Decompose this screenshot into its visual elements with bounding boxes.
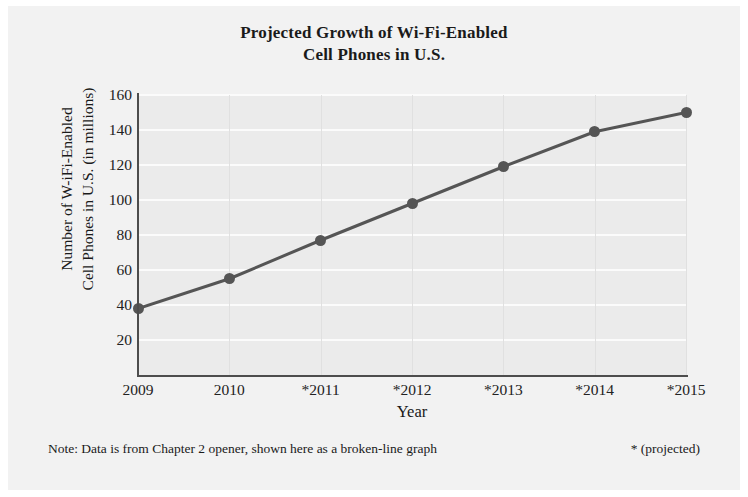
y-tick-label-120: 120: [96, 157, 132, 173]
y-axis-line: [137, 93, 139, 377]
x-tick-label-2009: 2009: [93, 381, 183, 399]
x-axis-title: Year: [138, 402, 686, 422]
data-point-2012: [407, 198, 418, 209]
y-tick-label-160: 160: [96, 87, 132, 103]
y-tick-label-80: 80: [96, 227, 132, 243]
y-tick-label-40: 40: [96, 297, 132, 313]
footnote-projected: * (projected): [631, 441, 700, 457]
y-tick-label-100: 100: [96, 192, 132, 208]
x-axis-line: [137, 375, 688, 377]
footnote-source: Note: Data is from Chapter 2 opener, sho…: [48, 441, 437, 457]
x-tick-label-2015: *2015: [641, 381, 731, 399]
series-line: [138, 95, 686, 375]
x-tick-label-2010: 2010: [184, 381, 274, 399]
chart-title-line-2: Cell Phones in U.S.: [0, 44, 748, 66]
y-tick-label-60: 60: [96, 262, 132, 278]
y-axis-tick-labels: 20406080100120140160: [92, 95, 132, 375]
chart-title: Projected Growth of Wi-Fi-Enabled Cell P…: [0, 22, 748, 66]
chart-title-line-1: Projected Growth of Wi-Fi-Enabled: [0, 22, 748, 44]
footnote: Note: Data is from Chapter 2 opener, sho…: [48, 441, 700, 457]
x-axis-tick-labels: 20092010*2011*2012*2013*2014*2015: [138, 381, 686, 403]
data-point-2011: [315, 235, 326, 246]
y-axis-title: Number of W-iFi-Enabled Cell Phones in U…: [56, 46, 98, 332]
chart-figure: Projected Growth of Wi-Fi-Enabled Cell P…: [0, 0, 748, 497]
y-axis-title-line-2: Cell Phones in U.S. (in millions): [77, 46, 98, 332]
y-tick-label-20: 20: [96, 332, 132, 348]
x-tick-label-2014: *2014: [550, 381, 640, 399]
x-tick-label-2013: *2013: [458, 381, 548, 399]
y-tick-label-140: 140: [96, 122, 132, 138]
data-point-2015: [681, 107, 692, 118]
data-point-2013: [498, 161, 509, 172]
gridline-v-2015: [686, 95, 687, 375]
data-point-2010: [224, 273, 235, 284]
x-tick-label-2011: *2011: [276, 381, 366, 399]
plot-area: [138, 95, 686, 375]
y-axis-title-line-1: Number of W-iFi-Enabled: [56, 46, 77, 332]
x-tick-label-2012: *2012: [367, 381, 457, 399]
